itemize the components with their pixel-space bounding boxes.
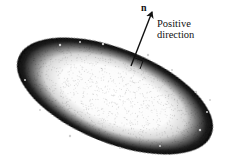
surface-diagram: [0, 0, 229, 161]
normal-vector-label: n: [141, 3, 147, 14]
positive-direction-line1: Positive: [157, 18, 194, 29]
positive-direction-line2: direction: [157, 29, 194, 40]
positive-direction-label: Positive direction: [157, 18, 194, 40]
surface-ellipse: [1, 13, 229, 161]
